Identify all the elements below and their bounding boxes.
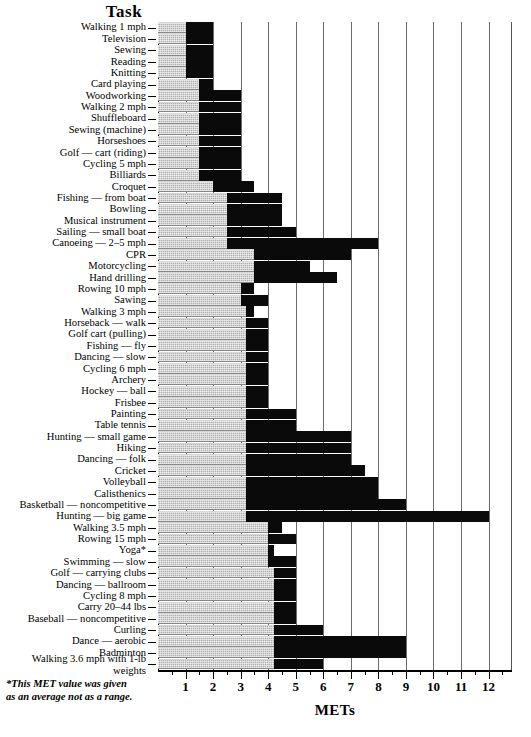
bar-segment-range	[274, 659, 324, 670]
y-tick	[148, 119, 156, 120]
bar-segment-range	[199, 113, 240, 124]
y-tick	[148, 50, 156, 51]
footnote-line-1: *This MET value was given	[6, 678, 156, 691]
category-label: Swimming — slow	[64, 556, 146, 567]
bar-row	[158, 181, 512, 192]
category-label: CPR	[126, 249, 146, 260]
y-tick	[148, 380, 156, 381]
x-tick-label: 7	[336, 679, 366, 695]
y-tick	[148, 482, 156, 483]
category-label: Card playing	[91, 78, 146, 89]
y-tick	[148, 141, 156, 142]
bar-segment-low	[158, 33, 186, 44]
x-tick	[337, 670, 338, 675]
bar-row	[158, 386, 512, 397]
y-tick	[148, 585, 156, 586]
category-label: Cycling 8 mph	[83, 590, 146, 601]
bar-segment-range	[246, 352, 268, 363]
category-label: Baseball — noncompetitive	[28, 613, 146, 624]
bar-segment-range	[246, 431, 351, 442]
x-tick	[227, 670, 228, 675]
bar-segment-low	[158, 625, 274, 636]
footnote: *This MET value was given as an average …	[6, 678, 156, 703]
bar-segment-range	[199, 79, 213, 90]
bar-row	[158, 102, 512, 113]
bar-segment-low	[158, 45, 186, 56]
bar-row	[158, 443, 512, 454]
y-tick	[148, 391, 156, 392]
bar-segment-low	[158, 374, 246, 385]
bar-segment-range	[246, 363, 268, 374]
footnote-line-2: as an average not as a range.	[6, 691, 156, 704]
y-tick	[148, 312, 156, 313]
category-label: Reading	[111, 56, 146, 67]
bar-segment-low	[158, 295, 241, 306]
bar-segment-range	[199, 90, 240, 101]
category-label: Dance — aerobic	[72, 635, 146, 646]
bar-segment-range	[274, 579, 296, 590]
bar-row	[158, 647, 512, 658]
bar-segment-low	[158, 204, 227, 215]
category-label: Motorcycling	[88, 260, 146, 271]
bar-segment-low	[158, 613, 274, 624]
y-tick	[148, 562, 156, 563]
category-label: Hand drilling	[89, 272, 146, 283]
x-tick-label: 5	[281, 679, 311, 695]
page-title: Task	[84, 2, 164, 22]
bar-row	[158, 124, 512, 135]
bar-segment-range	[227, 238, 379, 249]
x-tick	[310, 670, 311, 675]
category-label: Walking 1 mph	[81, 21, 146, 32]
category-label: Hunting — big game	[56, 510, 146, 521]
category-label: Golf — cart (riding)	[60, 147, 146, 158]
bar-segment-range	[199, 124, 240, 135]
y-tick	[148, 73, 156, 74]
bar-segment-range	[246, 443, 351, 454]
bar-segment-range	[186, 56, 214, 67]
x-tick	[475, 670, 476, 675]
bar-row	[158, 215, 512, 226]
category-label: Bowling	[110, 203, 147, 214]
bar-segment-range	[246, 397, 268, 408]
x-tick	[186, 670, 187, 679]
bar-row	[158, 22, 512, 33]
bar-segment-range	[246, 409, 296, 420]
y-tick	[148, 619, 156, 620]
bar-segment-low	[158, 409, 246, 420]
x-tick	[199, 670, 200, 675]
bar-segment-range	[254, 261, 309, 272]
bar-row	[158, 306, 512, 317]
bar-row	[158, 511, 512, 522]
bar-row	[158, 454, 512, 465]
y-tick	[148, 28, 156, 29]
bar-row	[158, 158, 512, 169]
bar-segment-low	[158, 306, 246, 317]
bar-segment-range	[199, 147, 240, 158]
bar-row	[158, 147, 512, 158]
y-tick	[148, 426, 156, 427]
bar-segment-low	[158, 352, 246, 363]
bar-segment-low	[158, 283, 241, 294]
x-tick	[172, 670, 173, 675]
bar-segment-low	[158, 568, 274, 579]
bar-row	[158, 625, 512, 636]
bar-segment-range	[274, 602, 296, 613]
bar-segment-low	[158, 136, 199, 147]
y-tick	[148, 153, 156, 154]
y-tick	[148, 289, 156, 290]
bar-segment-low	[158, 556, 268, 567]
category-label: Cricket	[115, 465, 146, 476]
bar-segment-range	[246, 511, 488, 522]
y-tick	[148, 471, 156, 472]
bar-segment-range	[241, 283, 255, 294]
x-tick	[268, 670, 269, 679]
x-axis-title: METs	[158, 702, 512, 719]
bar-row	[158, 579, 512, 590]
bar-row	[158, 636, 512, 647]
bar-row	[158, 488, 512, 499]
category-label: Rowing 15 mph	[78, 533, 146, 544]
bar-segment-low	[158, 647, 274, 658]
category-label: Musical instrument	[64, 215, 146, 226]
y-tick	[148, 448, 156, 449]
y-tick	[148, 187, 156, 188]
